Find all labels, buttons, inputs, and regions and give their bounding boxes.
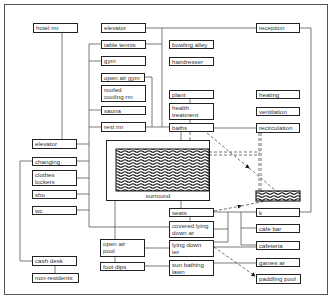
box-baths: baths xyxy=(169,123,214,132)
facility-diagram: surround hotel rmelevatortable tennisgym… xyxy=(0,0,333,301)
box-gym: gym xyxy=(101,56,146,66)
box-games-ar: games ar xyxy=(256,258,300,267)
box-hotel-rm: hotel rm xyxy=(33,23,78,33)
box-covered-lying-down-ar: covered lying down ar xyxy=(169,221,214,238)
box-ventilation: ventilation xyxy=(256,107,300,116)
box-non-residents: non-residents xyxy=(32,273,79,283)
box-cash-desk: cash desk xyxy=(32,256,77,266)
box-hairdresser: hairdresser xyxy=(169,57,214,66)
box-elevator-top: elevator xyxy=(101,23,146,33)
box-sho: sho xyxy=(32,190,77,199)
box-rest-rm: rest rm xyxy=(101,122,146,132)
box-sun-bathing-lawn: sun bathing lawn xyxy=(169,260,214,276)
box-seats: seats xyxy=(169,208,214,217)
box-changing: changing xyxy=(32,157,77,166)
box-reception: reception xyxy=(256,23,300,33)
box-plant: plant xyxy=(169,90,214,99)
surround-label: surround xyxy=(107,192,209,199)
box-open-air-gym: open air gym xyxy=(101,73,145,82)
surround-pool: surround xyxy=(106,140,210,201)
box-heating: heating xyxy=(256,90,300,99)
box-cafe-bar: cafe bar xyxy=(256,224,300,233)
box-foot-dips: foot dips xyxy=(100,262,145,271)
box-roofed-cooling-rm: roofed cooling rm xyxy=(101,85,146,102)
box-paddling-pool: paddling pool xyxy=(256,274,301,284)
box-elevator-left: elevator xyxy=(32,139,77,149)
box-clothes-lockers: clothes lockers xyxy=(32,170,77,186)
box-lying-down-ter: lying down ter xyxy=(169,240,214,257)
box-sauna: sauna xyxy=(101,106,146,115)
box-health-treatment: health treatment xyxy=(169,103,214,120)
box-table-tennis: table tennis xyxy=(101,40,146,49)
box-bowling-alley: bowling alley xyxy=(169,40,214,49)
box-k: k xyxy=(256,208,300,217)
box-open-air-pool: open air pool xyxy=(100,239,145,257)
box-cafeteria: cafeteria xyxy=(256,241,300,250)
box-wc: wc xyxy=(32,206,77,215)
box-recirculation: recirculation xyxy=(256,123,300,133)
